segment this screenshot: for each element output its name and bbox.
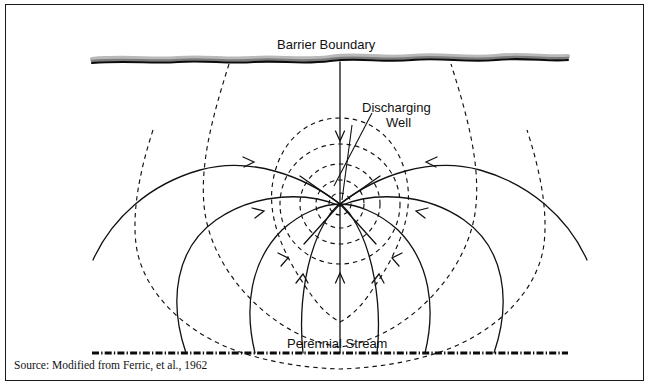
flow-arrow-right-mid	[416, 208, 428, 218]
flow-line-right-innermost	[340, 204, 378, 353]
flow-net-diagram: Barrier Boundary Perennial Stream	[0, 0, 650, 387]
flow-arrow-left-mid	[252, 208, 264, 218]
source-note: Source: Modified from Ferric, et al., 19…	[14, 359, 207, 372]
flow-line-left-mid	[177, 197, 340, 353]
discharging-well-label-line1: Discharging	[362, 100, 431, 115]
flow-line-right-outer	[340, 165, 587, 260]
flow-arrow-left-inner	[278, 253, 288, 266]
flow-line-left-outer	[93, 165, 340, 260]
discharging-well-label-line2: Well	[386, 115, 411, 130]
barrier-boundary-line	[92, 55, 568, 63]
flow-line-radial-ll	[304, 204, 340, 244]
figure-page: Barrier Boundary Perennial Stream	[0, 0, 650, 387]
barrier-boundary-label: Barrier Boundary	[277, 37, 376, 52]
flow-line-left-inner	[250, 204, 340, 353]
flow-line-right-mid	[340, 197, 503, 353]
flow-line-right-inner	[340, 204, 430, 353]
flow-line-left-innermost	[302, 204, 340, 353]
flow-line-radial-lr	[340, 204, 376, 244]
flow-lines	[93, 62, 587, 353]
